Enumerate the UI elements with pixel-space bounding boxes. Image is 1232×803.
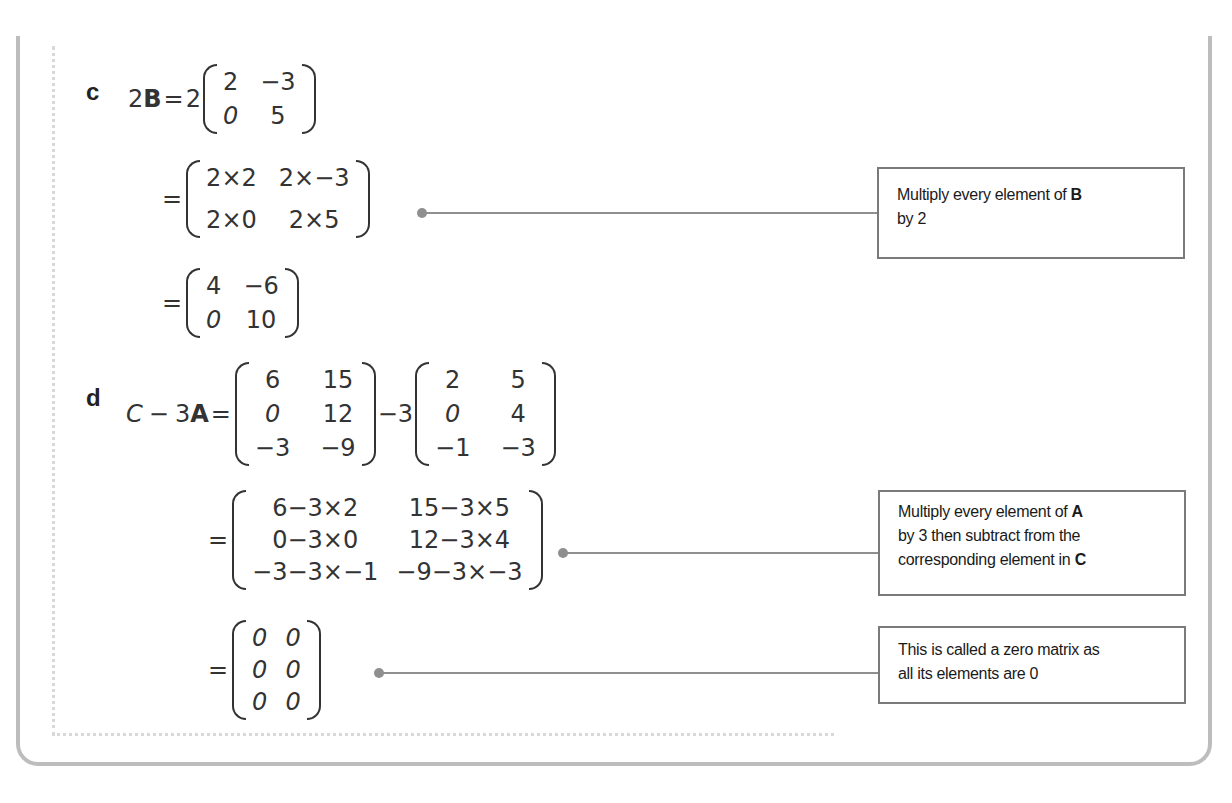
cell: 2×2	[206, 162, 257, 194]
equals-sign: =	[162, 185, 182, 213]
cell: 2	[223, 66, 238, 98]
part-d-label: d	[86, 384, 101, 412]
part-c-label: c	[86, 78, 99, 106]
part-c-line1: 2B = 2 2 −3 0 5	[128, 64, 318, 134]
cell: 5	[260, 100, 295, 132]
lhs-scalar: 2	[128, 85, 143, 113]
part-d-line1: C − 3A = 6 15 0 12 −3 −9 −3 2 5 0 4 −1 −…	[126, 362, 558, 466]
matrix-expanded: 2×2 2×−3 2×0 2×5	[186, 160, 369, 238]
cell: 10	[243, 304, 278, 336]
note-multiply-b: Multiply every element of B by 2	[877, 167, 1185, 259]
leader-line	[379, 672, 879, 674]
zero-matrix: 0 0 0 0 0 0	[232, 620, 321, 720]
cell: 0	[206, 304, 221, 336]
scalar: 2	[186, 85, 201, 113]
part-d-line3: = 0 0 0 0 0 0	[206, 620, 323, 720]
lhs-matrix-c: C	[126, 400, 143, 428]
leader-line	[563, 552, 879, 554]
equals-sign: =	[162, 289, 182, 317]
leader-line	[422, 212, 878, 214]
cell: 2×−3	[279, 162, 350, 194]
part-c-line2: = 2×2 2×−3 2×0 2×5	[160, 160, 372, 238]
matrix-result: 4 −6 0 10	[186, 268, 299, 338]
note-zero-matrix: This is called a zero matrix as all its …	[878, 626, 1186, 704]
minus-three: −3	[378, 400, 413, 428]
matrix-a: 2 5 0 4 −1 −3	[415, 362, 556, 466]
equals-sign: =	[208, 526, 228, 554]
cell: −3	[260, 66, 295, 98]
cell: 4	[206, 270, 221, 302]
part-c-line3: = 4 −6 0 10	[160, 268, 301, 338]
cell: 0	[223, 100, 238, 132]
cell: 2×5	[279, 204, 350, 236]
matrix-expanded: 6−3×2 15−3×5 0−3×0 12−3×4 −3−3×−1 −9−3×−…	[232, 490, 543, 590]
lhs-matrix-b: B	[143, 85, 161, 113]
lhs-matrix-a: A	[190, 400, 209, 428]
equals-sign: =	[211, 400, 231, 428]
equals-sign: =	[208, 656, 228, 684]
cell: 2×0	[206, 204, 257, 236]
matrix-b: 2 −3 0 5	[203, 64, 316, 134]
part-d-line2: = 6−3×2 15−3×5 0−3×0 12−3×4 −3−3×−1 −9−3…	[206, 490, 545, 590]
matrix-c: 6 15 0 12 −3 −9	[235, 362, 376, 466]
cell: −6	[243, 270, 278, 302]
note-multiply-a-subtract: Multiply every element of A by 3 then su…	[878, 490, 1186, 596]
equals-sign: =	[164, 85, 184, 113]
